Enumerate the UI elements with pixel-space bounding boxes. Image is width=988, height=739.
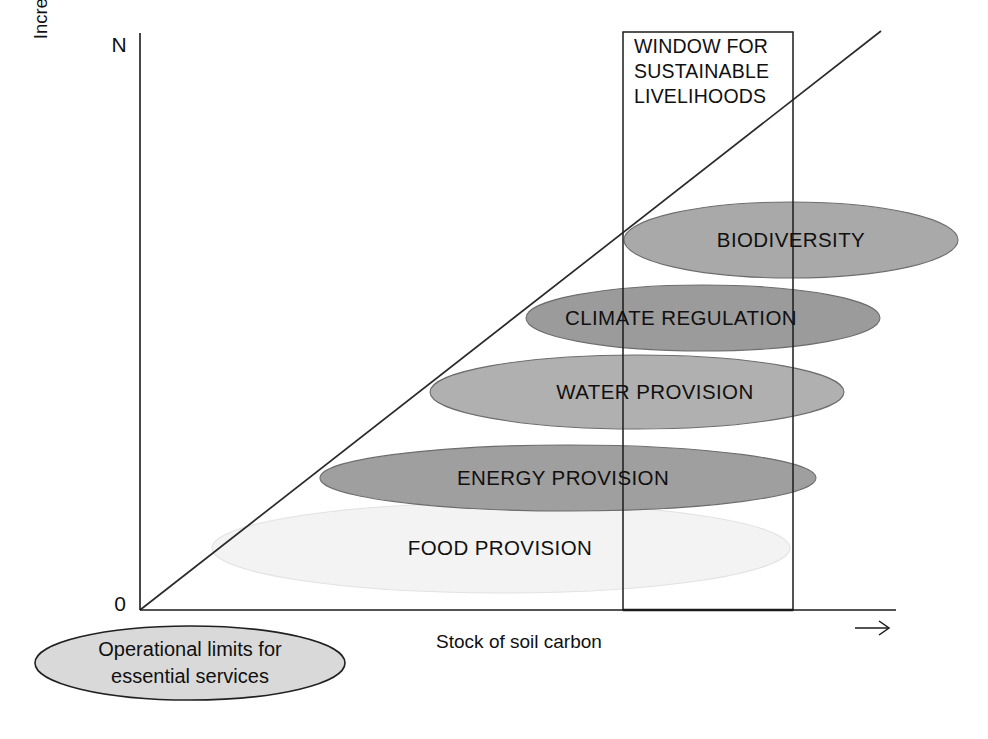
legend-key-label-line-1: Operational limits for [45,636,335,663]
label-energy-provision: ENERGY PROVISION [457,466,669,490]
window-box-label-line-2: SUSTAINABLE [634,59,802,84]
x-axis-title: Stock of soil carbon [436,631,602,653]
y-axis-title: Increasing numbers (and bundles) of ecos… [28,0,86,56]
label-water-provision: WATER PROVISION [556,380,753,404]
legend-key-label-line-2: essential services [45,663,335,690]
window-box-label-line-3: LIVELIHOODS [634,84,802,109]
window-box-label-line-1: WINDOW FOR [634,34,802,59]
label-biodiversity: BIODIVERSITY [717,228,865,252]
y-axis-max-label: N [111,33,126,57]
label-food-provision: FOOD PROVISION [408,536,592,560]
legend-key-label: Operational limits for essential service… [45,636,335,690]
diagram-svg [0,0,988,739]
figure-canvas: Increasing numbers (and bundles) of ecos… [0,0,988,739]
y-axis-zero-label: 0 [114,592,126,616]
label-climate-regulation: CLIMATE REGULATION [565,306,797,330]
window-box-label: WINDOW FOR SUSTAINABLE LIVELIHOODS [634,34,802,109]
x-axis-direction-arrow-icon [855,621,889,635]
